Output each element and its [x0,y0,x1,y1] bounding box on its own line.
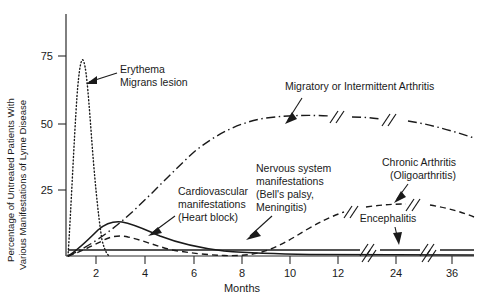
chronic-label-line1: Chronic Arthritis [382,156,456,168]
nervous-arrowhead [246,230,261,240]
cardio-label-line3: (Heart block) [178,211,238,223]
lyme-disease-manifestations-chart: Percentage of Untreated Patients With Va… [0,0,479,295]
encephalitis-arrowhead [393,232,402,245]
chart-canvas: Percentage of Untreated Patients With Va… [0,0,479,295]
curve-cardiovascular [68,222,474,256]
annotation-chronic-arthritis: Chronic Arthritis (Oligoarthritis) [382,156,456,203]
y-tick-label-75: 75 [41,50,53,62]
chronic-arrowhead [394,191,406,203]
curve-nervous-system-mid [366,204,406,207]
cardio-label-line2: manifestations [178,198,246,210]
x-tick-label-6: 6 [191,267,197,279]
curve-migratory-arthritis-mid [352,117,380,119]
x-tick-label-4: 4 [142,267,148,279]
x-tick-label-12: 12 [332,267,344,279]
migratory-label: Migratory or Intermittent Arthritis [285,80,434,92]
erythema-label-line2: Migrans lesion [120,76,188,88]
y-axis-title-line2: Various Manifestations of Lyme Disease [17,100,28,270]
x-tick-label-36: 36 [446,267,458,279]
curve-migratory-arthritis-right [408,121,474,138]
nervous-label-line1: Nervous system [256,162,332,174]
annotation-cardiovascular: Cardiovascular manifestations (Heart blo… [148,185,249,236]
annotation-nervous-system: Nervous system manifestations (Bell's pa… [246,162,332,240]
chronic-label-line2: (Oligoarthritis) [390,169,456,181]
nervous-label-line3: (Bell's palsy, [256,188,314,200]
encephalitis-label: Encephalitis [360,212,417,224]
y-tick-label-25: 25 [41,184,53,196]
nervous-label-line2: manifestations [256,175,324,187]
y-axis-title-line1: Percentage of Untreated Patients With [5,98,16,262]
x-tick-label-8: 8 [239,267,245,279]
y-axis-title: Percentage of Untreated Patients With Va… [5,98,28,270]
migratory-arrowhead [285,112,297,124]
x-tick-label-10: 10 [284,267,296,279]
axis-break-marks [330,111,436,262]
nervous-label-line4: Meningitis) [256,201,307,213]
annotation-erythema-migrans: Erythema Migrans lesion [86,63,188,88]
x-tick-label-2: 2 [93,267,99,279]
y-tick-label-50: 50 [41,118,53,130]
cardio-label-line1: Cardiovascular [178,185,249,197]
annotation-encephalitis: Encephalitis [360,212,417,245]
x-axis-title: Months [224,282,261,294]
erythema-label-line1: Erythema [120,63,165,75]
curve-nervous-system-right [430,205,474,217]
x-tick-label-24: 24 [390,267,402,279]
erythema-arrowhead [86,76,97,84]
